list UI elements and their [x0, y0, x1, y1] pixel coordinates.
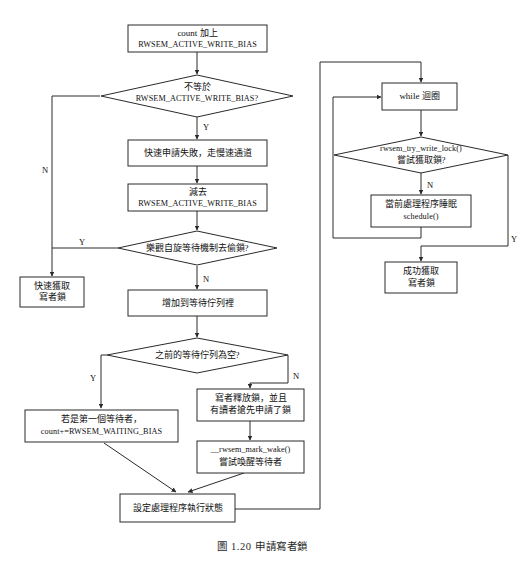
node-try-write-lock: rwsem_try_write_lock() 嘗試獲取鎖?	[334, 137, 508, 173]
edge-label-queueempty-no: N	[293, 371, 299, 381]
node-success-acquire: 成功獲取 寫者鎖	[385, 262, 457, 293]
node-writer-release: 寫者釋放鎖，並且 有讀者搶先申請了鎖	[197, 389, 304, 421]
node-fast-fail: 快速申請失敗，走慢速通道	[128, 140, 267, 166]
edge-firstwaiter-to-setstate	[104, 443, 176, 492]
edge-label-trylock-no: N	[427, 180, 433, 190]
node-not-equal: 不等於 RWSEM_ACTIVE_WRITE_BIAS?	[101, 75, 293, 117]
node-first-waiter: 若是第一個等待者， count+=RWSEM_WAITING_BIAS	[25, 410, 178, 442]
edge-notequal-no	[52, 96, 100, 276]
node-add-queue: 增加到等待佇列裡	[128, 290, 267, 316]
node-queue-empty-line1: 之前的等待佇列為空?	[155, 349, 240, 360]
edge-markwake-to-setstate	[188, 473, 244, 492]
node-writer-release-line1: 寫者釋放鎖，並且	[215, 392, 287, 403]
node-set-state: 設定處理程序執行狀態	[120, 494, 235, 522]
node-count-add: count 加上 RWSEM_ACTIVE_WRITE_BIAS	[128, 25, 267, 52]
node-fast-acquire-line2: 寫者鎖	[39, 291, 66, 302]
node-first-waiter-line1: 若是第一個等待者，	[61, 413, 142, 424]
node-fast-acquire: 快速獲取 寫者鎖	[20, 277, 84, 307]
node-schedule: 當前處理程序睡眠 schedule()	[371, 195, 471, 227]
node-count-add-line2: RWSEM_ACTIVE_WRITE_BIAS	[138, 40, 257, 49]
node-not-equal-line1: 不等於	[184, 81, 211, 92]
node-subtract-line1: 減去	[189, 186, 207, 197]
node-add-queue-line1: 增加到等待佇列裡	[162, 297, 234, 308]
node-success-acquire-line2: 寫者鎖	[408, 277, 435, 288]
edge-label-spin-yes: Y	[79, 237, 85, 247]
figure-caption: 圖 1.20 申請寫者鎖	[0, 538, 525, 553]
node-first-waiter-line2: count+=RWSEM_WAITING_BIAS	[41, 427, 163, 436]
node-try-write-lock-line1: rwsem_try_write_lock()	[380, 144, 462, 153]
edge-label-notequal-no: N	[42, 165, 48, 175]
node-subtract-line2: RWSEM_ACTIVE_WRITE_BIAS	[138, 199, 257, 208]
node-subtract: 減去 RWSEM_ACTIVE_WRITE_BIAS	[128, 184, 267, 211]
node-writer-release-line2: 有讀者搶先申請了鎖	[210, 404, 291, 415]
node-set-state-line1: 設定處理程序執行狀態	[133, 502, 223, 513]
node-count-add-line1: count 加上	[177, 28, 217, 38]
node-mark-wake: __rwsem_mark_wake() 嘗試喚醒等待者	[197, 441, 304, 473]
node-mark-wake-line2: 嘗試喚醒等待者	[219, 456, 282, 467]
node-not-equal-line2: RWSEM_ACTIVE_WRITE_BIAS?	[136, 94, 259, 103]
node-optimistic-spin: 樂觀自旋等待機制去偷鎖?	[118, 231, 277, 265]
edge-label-trylock-yes: Y	[511, 234, 517, 244]
node-success-acquire-line1: 成功獲取	[403, 265, 439, 276]
node-try-write-lock-line2: 嘗試獲取鎖?	[397, 154, 446, 165]
edge-label-spin-no: N	[203, 274, 209, 284]
flowchart-canvas: count 加上 RWSEM_ACTIVE_WRITE_BIAS 不等於 RWS…	[0, 0, 525, 568]
node-schedule-line2: schedule()	[403, 212, 438, 221]
node-fast-fail-line1: 快速申請失敗，走慢速通道	[144, 147, 252, 158]
edge-label-queueempty-yes: Y	[90, 373, 96, 383]
node-queue-empty: 之前的等待佇列為空?	[107, 338, 288, 373]
node-mark-wake-line1: __rwsem_mark_wake()	[210, 445, 291, 454]
node-fast-acquire-line1: 快速獲取	[34, 280, 70, 291]
flowchart-figure: count 加上 RWSEM_ACTIVE_WRITE_BIAS 不等於 RWS…	[0, 0, 525, 568]
node-while-loop: while 迴圈	[382, 83, 457, 110]
edge-label-notequal-yes: Y	[203, 122, 209, 132]
node-optimistic-spin-line1: 樂觀自旋等待機制去偷鎖?	[146, 242, 249, 253]
node-schedule-line1: 當前處理程序睡眠	[385, 198, 457, 209]
node-while-loop-line1: while 迴圈	[399, 91, 439, 101]
edge-queueempty-yes	[101, 355, 107, 408]
